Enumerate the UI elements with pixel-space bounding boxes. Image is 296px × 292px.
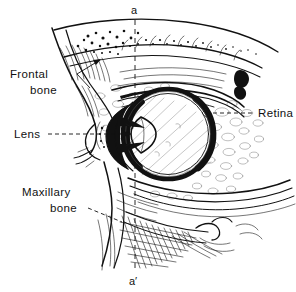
label-retina-text: Retina (258, 107, 294, 119)
svg-text:a: a (131, 4, 138, 16)
axis-marker-bottom: a′ (129, 275, 137, 287)
eye-anatomy-figure: Frontal bone Lens Maxillary bone Retina … (0, 0, 296, 292)
label-frontal-bone-line-2: bone (30, 84, 57, 96)
eyeball-globe (123, 89, 213, 180)
label-lens-text: Lens (14, 128, 40, 140)
label-maxillary-bone-line-2: bone (50, 202, 77, 214)
svg-text:a′: a′ (129, 275, 137, 287)
anatomy-illustration: Frontal bone Lens Maxillary bone Retina … (0, 0, 296, 292)
axis-marker-top: a (131, 4, 138, 16)
label-maxillary-bone-line-1: Maxillary (22, 186, 71, 198)
label-frontal-bone-line-1: Frontal (10, 68, 48, 80)
